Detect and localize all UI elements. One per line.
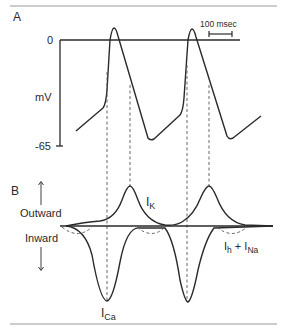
inward-label: Inward: [25, 232, 58, 244]
membrane-potential-trace: [76, 28, 261, 140]
panel-b-label: B: [11, 184, 19, 198]
ih-ina-label: Ih + INa: [224, 240, 259, 255]
down-arrow-icon: [39, 247, 44, 271]
y-tick-zero: 0: [47, 34, 53, 46]
scale-bar-label: 100 msec: [200, 19, 238, 29]
ik-current-trace: [66, 186, 273, 226]
up-arrow-icon: [39, 182, 44, 206]
y-tick-minus65: -65: [35, 140, 51, 152]
panel-a-label: A: [13, 10, 21, 24]
ica-label: ICa: [101, 306, 116, 322]
scale-bar: [209, 31, 232, 37]
panel-b: B Outward Inward IK ICa Ih + INa: [11, 182, 273, 323]
y-axis-label-mv: mV: [35, 91, 52, 103]
ik-label: IK: [146, 195, 155, 211]
figure-canvas: A 0 mV -65 100 msec B Outward Inw: [0, 0, 285, 331]
ica-current-trace: [66, 226, 273, 302]
time-guide-lines: [107, 65, 209, 302]
panel-a: A 0 mV -65 100 msec: [13, 10, 261, 152]
outward-label: Outward: [20, 207, 62, 219]
